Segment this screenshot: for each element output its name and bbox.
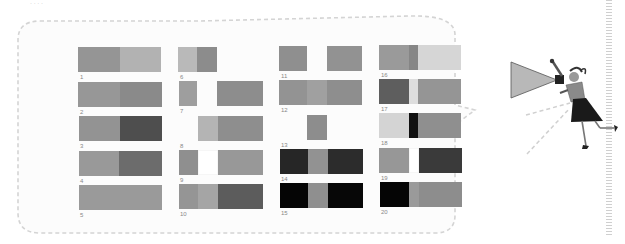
megaphone-woman-illustration bbox=[0, 0, 625, 244]
woman-figure-icon bbox=[550, 59, 618, 149]
